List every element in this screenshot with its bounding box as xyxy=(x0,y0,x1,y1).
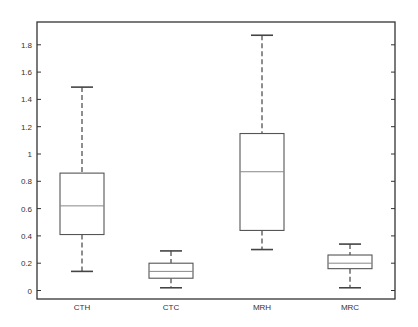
y-tick-label: 1 xyxy=(28,150,33,159)
x-category-label: CTC xyxy=(163,303,180,312)
y-tick-label: 1.2 xyxy=(21,123,33,132)
y-tick-label: 0.6 xyxy=(21,205,33,214)
box-cth xyxy=(60,87,104,271)
iqr-box xyxy=(240,134,284,231)
box-mrh xyxy=(240,35,284,249)
y-tick-label: 0.4 xyxy=(21,232,33,241)
x-axis-labels: CTHCTCMRHMRC xyxy=(74,303,360,312)
y-tick-label: 0 xyxy=(28,287,33,296)
y-tick-label: 1.4 xyxy=(21,95,33,104)
x-category-label: CTH xyxy=(74,303,91,312)
x-category-label: MRH xyxy=(253,303,271,312)
x-category-label: MRC xyxy=(341,303,359,312)
y-tick-label: 1.8 xyxy=(21,41,33,50)
box-mrc xyxy=(328,244,372,288)
box-ctc xyxy=(149,251,193,288)
y-tick-label: 0.2 xyxy=(21,259,33,268)
y-tick-label: 1.6 xyxy=(21,68,33,77)
iqr-box xyxy=(60,173,104,234)
box-series xyxy=(60,35,372,288)
iqr-box xyxy=(149,263,193,278)
y-tick-label: 0.8 xyxy=(21,177,33,186)
box-plot-chart: 00.20.40.60.811.21.41.61.8 CTHCTCMRHMRC xyxy=(0,0,418,327)
iqr-box xyxy=(328,255,372,269)
